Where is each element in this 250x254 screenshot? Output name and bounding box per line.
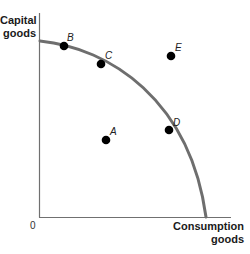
point-d-marker bbox=[165, 126, 174, 135]
x-axis-title-line2: goods bbox=[173, 233, 244, 246]
origin-label: 0 bbox=[30, 220, 36, 231]
point-d-label: D bbox=[173, 117, 180, 128]
point-e-label: E bbox=[175, 42, 182, 53]
x-axis-title: Consumption goods bbox=[173, 220, 244, 246]
point-e: E bbox=[167, 42, 182, 60]
point-c-marker bbox=[97, 60, 106, 69]
point-b-label: B bbox=[67, 32, 74, 43]
point-c-label: C bbox=[105, 50, 113, 61]
ppf-chart: B C E A D bbox=[0, 0, 250, 254]
ppf-curve bbox=[40, 41, 206, 217]
point-a: A bbox=[102, 126, 117, 144]
point-a-label: A bbox=[109, 126, 117, 137]
x-axis-title-line1: Consumption bbox=[173, 220, 244, 233]
point-e-marker bbox=[167, 52, 176, 61]
point-a-marker bbox=[102, 136, 111, 145]
